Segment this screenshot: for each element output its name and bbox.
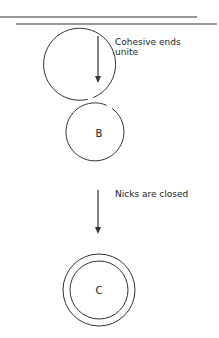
step-1-label-line-2: unite	[115, 47, 138, 57]
outer-strand-nicked	[44, 28, 116, 100]
arrowhead-icon	[95, 227, 101, 234]
circle-b: B	[44, 28, 124, 161]
node-label-c: C	[96, 285, 103, 296]
arrowhead-icon	[95, 76, 101, 83]
step-2-label: Nicks are closed	[115, 189, 188, 199]
circle-c: C	[63, 254, 135, 326]
step-1-label-line-1: Cohesive ends	[115, 37, 181, 47]
node-label-b: B	[96, 128, 103, 139]
diagram-canvas: Cohesive ends unite B Nicks are closed C	[0, 0, 219, 338]
arrow-cohesive-ends	[95, 36, 101, 83]
arrow-nicks-closed	[95, 190, 101, 234]
